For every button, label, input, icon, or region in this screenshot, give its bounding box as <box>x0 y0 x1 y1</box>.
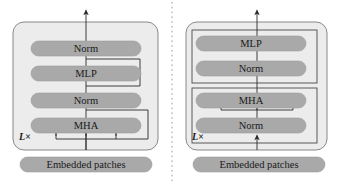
pre-ln-encoder-panel-mha-label: MHA <box>74 120 99 131</box>
post-ln-encoder-panel-norm-upper-label: Norm <box>239 63 264 74</box>
pre-ln-encoder-panel-norm-bottom[interactable]: Norm <box>31 93 141 108</box>
pre-ln-encoder-panel-mlp[interactable]: MLP <box>31 66 141 81</box>
pre-ln-encoder-panel-norm-top[interactable]: Norm <box>31 41 141 56</box>
post-ln-encoder-panel-embedded-patches[interactable]: Embedded patches <box>193 157 325 172</box>
pre-ln-encoder-panel-mha[interactable]: MHA <box>31 118 141 133</box>
pre-ln-encoder-panel-norm-top-label: Norm <box>74 43 99 54</box>
post-ln-encoder-panel-mha[interactable]: MHA <box>196 93 306 108</box>
post-ln-encoder-panel-norm-lower[interactable]: Norm <box>196 118 306 133</box>
pre-ln-encoder-panel-embedded-patches[interactable]: Embedded patches <box>20 157 152 172</box>
post-ln-encoder-panel: MLPNormMHANormL×Embedded patches <box>186 12 327 172</box>
post-ln-encoder-panel-embedded-patches-label: Embedded patches <box>219 159 298 170</box>
post-ln-encoder-panel-norm-upper[interactable]: Norm <box>196 61 306 76</box>
post-ln-encoder-panel-norm-lower-label: Norm <box>239 120 264 131</box>
figure-canvas: NormMLPNormMHAL×Embedded patchesMLPNormM… <box>0 0 344 186</box>
pre-ln-encoder-panel-embedded-patches-label: Embedded patches <box>46 159 125 170</box>
post-ln-encoder-panel-mlp-label: MLP <box>240 38 262 49</box>
post-ln-encoder-panel-repeat-label: L× <box>191 131 204 142</box>
pre-ln-encoder-panel-repeat-label: L× <box>18 131 31 142</box>
post-ln-encoder-panel-mlp[interactable]: MLP <box>196 36 306 51</box>
pre-ln-encoder-panel-norm-bottom-label: Norm <box>74 95 99 106</box>
transformer-block-diagram: NormMLPNormMHAL×Embedded patchesMLPNormM… <box>0 0 344 186</box>
post-ln-encoder-panel-mha-label: MHA <box>239 95 264 106</box>
pre-ln-encoder-panel: NormMLPNormMHAL×Embedded patches <box>13 12 158 172</box>
pre-ln-encoder-panel-mlp-label: MLP <box>75 68 97 79</box>
